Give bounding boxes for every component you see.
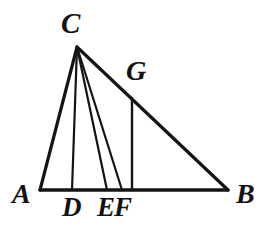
vertex-label-B: B bbox=[236, 180, 255, 208]
vertex-label-E: E bbox=[97, 194, 115, 221]
cevian-lines bbox=[72, 47, 132, 190]
segment-AC bbox=[40, 47, 77, 190]
vertex-label-C: C bbox=[61, 9, 80, 38]
geometry-figure: A B C D E F G bbox=[0, 0, 265, 228]
vertex-label-A: A bbox=[12, 180, 31, 208]
segment-CE bbox=[77, 47, 107, 190]
vertex-label-F: F bbox=[114, 194, 132, 221]
triangle-diagram-svg bbox=[0, 0, 265, 228]
vertex-label-D: D bbox=[62, 194, 82, 221]
vertex-label-G: G bbox=[126, 57, 146, 85]
